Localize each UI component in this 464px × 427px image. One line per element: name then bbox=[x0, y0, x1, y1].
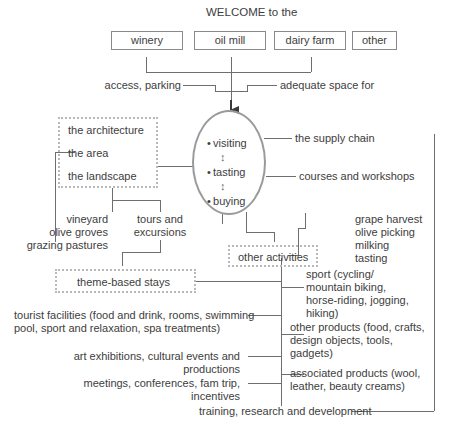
label-experiences: grape harvest olive picking milking tast… bbox=[355, 213, 422, 265]
theme-based-stays-box: theme-based stays bbox=[55, 269, 196, 293]
context-item-landscape: the landscape bbox=[68, 170, 137, 183]
label-supply-chain: the supply chain bbox=[295, 132, 375, 145]
context-item-area: the area bbox=[68, 147, 108, 160]
top-box-oil-mill[interactable]: oil mill bbox=[194, 31, 266, 50]
theme-based-stays-label: theme-based stays bbox=[77, 276, 170, 289]
label-places: vineyard olive groves grazing pastures bbox=[20, 213, 108, 252]
core-connector-1: ↕ bbox=[220, 152, 226, 163]
core-item-buying: • buying bbox=[207, 195, 245, 208]
top-box-other[interactable]: other bbox=[352, 31, 397, 50]
right-item-other-products: other products (food, crafts, design obj… bbox=[290, 321, 425, 360]
bottom-item-training: training, research and development bbox=[199, 405, 371, 418]
top-box-dairy-farm[interactable]: dairy farm bbox=[274, 31, 346, 50]
right-item-sport: sport (cycling/ mountain biking, horse-r… bbox=[306, 268, 409, 320]
left-item-tourist-facilities: tourist facilities (food and drink, room… bbox=[14, 309, 254, 335]
label-tours-excursions: tours and excursions bbox=[118, 213, 202, 239]
core-item-visiting: • visiting bbox=[207, 137, 247, 150]
core-connector-2: ↕ bbox=[220, 181, 226, 192]
page-title: WELCOME to the bbox=[206, 6, 297, 18]
other-activities-box: other activities bbox=[228, 245, 318, 267]
requirement-adequate-space: adequate space for bbox=[280, 79, 374, 92]
top-box-winery[interactable]: winery bbox=[111, 31, 183, 50]
left-item-art-exhibitions: art exhibitions, cultural events and pro… bbox=[40, 350, 240, 376]
requirement-access-parking: access, parking bbox=[83, 79, 181, 92]
context-box: the architecture the area the landscape bbox=[58, 117, 158, 188]
agritourism-diagram: WELCOME to the winery oil mill dairy far… bbox=[0, 0, 464, 427]
label-courses-workshops: courses and workshops bbox=[299, 170, 415, 183]
left-item-meetings: meetings, conferences, fam trip, incenti… bbox=[40, 377, 240, 403]
right-item-associated-products: associated products (wool, leather, beau… bbox=[290, 367, 420, 393]
context-item-architecture: the architecture bbox=[68, 124, 144, 137]
core-item-tasting: • tasting bbox=[207, 166, 245, 179]
other-activities-label: other activities bbox=[238, 251, 308, 264]
